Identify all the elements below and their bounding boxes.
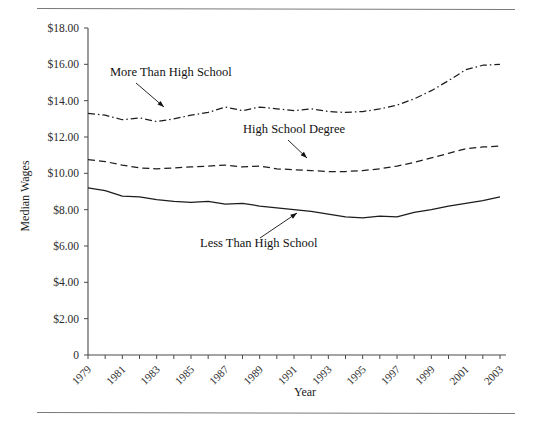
x-axis-tick-label: 1993 xyxy=(310,363,334,387)
x-axis-tick-label: 1983 xyxy=(138,363,162,387)
series-line-high-school-degree xyxy=(88,146,500,171)
y-axis-tick-label: $2.00 xyxy=(53,313,79,325)
x-axis-tick-label: 1987 xyxy=(207,363,231,387)
x-axis-title: Year xyxy=(294,385,316,399)
annotation-label: More Than High School xyxy=(110,65,232,79)
x-axis-tick-label: 1979 xyxy=(69,363,93,387)
y-axis-tick-label: $16.00 xyxy=(47,58,79,70)
y-axis: $18.00$16.00$14.00$12.00$10.00$8.00$6.00… xyxy=(47,22,88,361)
top-horizontal-rule xyxy=(37,9,515,10)
y-axis-tick-label: $6.00 xyxy=(53,240,79,252)
median-wages-line-chart: $18.00$16.00$14.00$12.00$10.00$8.00$6.00… xyxy=(0,0,552,423)
y-axis-tick-label: $14.00 xyxy=(47,95,79,107)
x-axis-tick-label: 1985 xyxy=(172,363,196,387)
x-axis: 1979198119831985198719891991199319951997… xyxy=(69,355,506,387)
y-axis-tick-label: $8.00 xyxy=(53,204,79,216)
y-axis-tick-label: $4.00 xyxy=(53,276,79,288)
y-axis-title: Median Wages xyxy=(18,160,32,231)
annotation-arrow-head xyxy=(290,213,297,219)
x-axis-tick-label: 1999 xyxy=(413,363,437,387)
series-line-less-than-high-school xyxy=(88,188,500,218)
x-axis-tick-label: 2003 xyxy=(481,363,505,387)
series-annotations: More Than High SchoolHigh School DegreeL… xyxy=(110,65,346,250)
annotation-label: Less Than High School xyxy=(200,236,318,250)
x-axis-tick-label: 1981 xyxy=(104,363,128,387)
chart-figure: $18.00$16.00$14.00$12.00$10.00$8.00$6.00… xyxy=(0,0,552,423)
x-axis-tick-label: 1997 xyxy=(378,363,402,387)
x-axis-tick-label: 1989 xyxy=(241,363,265,387)
annotation-label: High School Degree xyxy=(243,122,346,136)
x-axis-tick-label: 1995 xyxy=(344,363,368,387)
x-axis-tick-label: 2001 xyxy=(447,363,471,387)
x-axis-tick-label: 1991 xyxy=(275,363,299,387)
y-axis-tick-label: $18.00 xyxy=(47,22,79,34)
series-lines xyxy=(88,64,500,218)
y-axis-tick-label: $12.00 xyxy=(47,131,79,143)
y-axis-tick-label: 0 xyxy=(73,349,79,361)
y-axis-tick-label: $10.00 xyxy=(47,167,79,179)
bottom-horizontal-rule xyxy=(37,413,515,414)
annotation-arrow-shaft xyxy=(260,213,297,238)
